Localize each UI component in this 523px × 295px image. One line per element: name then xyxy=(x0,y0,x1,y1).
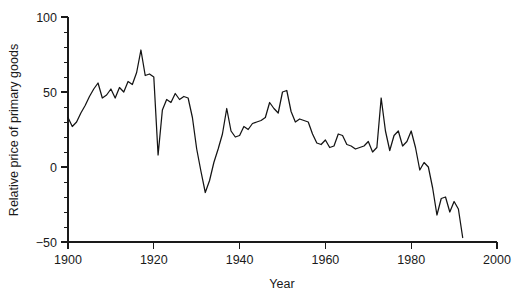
line-chart: −50050100190019201940196019802000 Year R… xyxy=(0,0,523,295)
x-axis-tick-label: 1940 xyxy=(226,253,254,267)
axis-tick-labels: −50050100190019201940196019802000 xyxy=(36,11,511,268)
y-axis-title: Relative price of primary goods xyxy=(7,44,21,216)
data-series-line xyxy=(68,50,463,238)
y-axis-minor-ticks xyxy=(64,32,68,227)
x-axis-tick-label: 1900 xyxy=(54,253,82,267)
x-axis-tick-label: 1960 xyxy=(311,253,339,267)
axis-lines xyxy=(68,17,497,242)
x-axis-tick-label: 1920 xyxy=(140,253,168,267)
y-axis-tick-label: 100 xyxy=(36,11,57,25)
chart-figure: −50050100190019201940196019802000 Year R… xyxy=(0,0,523,295)
y-axis-tick-label: 0 xyxy=(50,161,57,175)
y-axis-tick-label: −50 xyxy=(36,236,57,250)
x-axis-tick-label: 1980 xyxy=(397,253,425,267)
axes xyxy=(68,17,497,242)
x-axis-tick-label: 2000 xyxy=(483,253,511,267)
y-axis-tick-label: 50 xyxy=(43,86,57,100)
axis-major-ticks xyxy=(61,17,497,249)
x-axis-title: Year xyxy=(269,277,294,291)
